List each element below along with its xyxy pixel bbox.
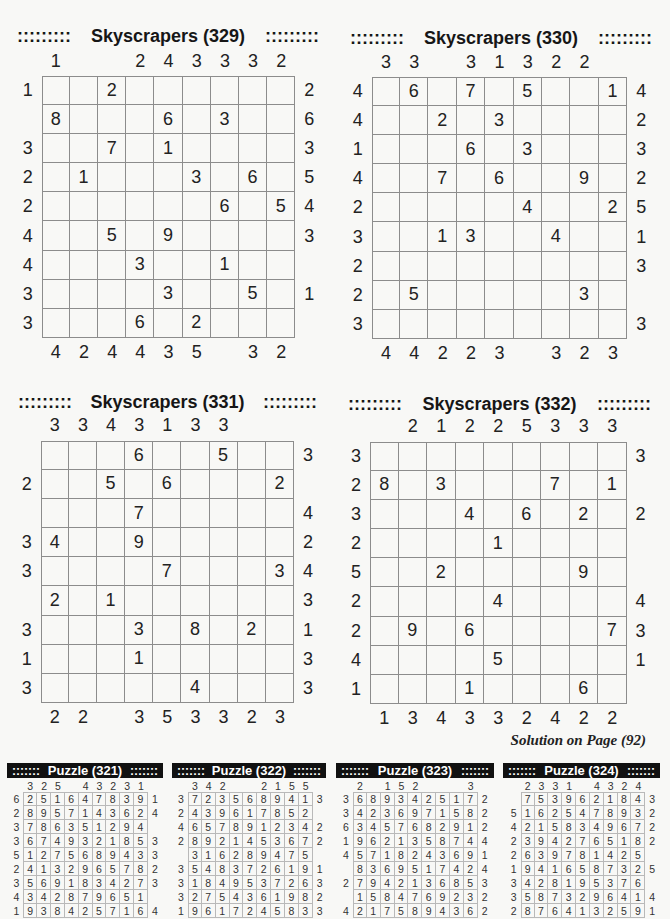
grid-cell: 8 [202,876,216,890]
grid-cell: 3 [285,820,299,834]
grid-cell [211,163,239,192]
grid-cell [41,616,69,645]
solution-321-board: 3254323162516478391289571436243786351294… [9,780,162,918]
grid-cell [125,586,153,615]
left-clue: 3 [339,806,353,820]
grid-cell: 5 [422,834,436,848]
grid-cell: 9 [535,834,549,848]
grid-cell [456,558,485,587]
grid-cell [211,76,239,105]
grid-cell [513,442,542,471]
grid-cell [598,529,627,558]
grid-cell: 3 [436,848,450,862]
grid-cell: 4 [590,820,604,834]
grid-cell: 3 [202,806,216,820]
grid-cell [126,192,154,221]
grid-cell [541,442,570,471]
grid-cell: 8 [353,862,367,876]
left-clue: 6 [339,820,353,834]
grid-cell: 6 [79,848,93,862]
grid-cell: 4 [618,890,632,904]
grid-cell [400,106,428,135]
grid-cell: 3 [604,876,618,890]
grid-cell: 7 [367,848,381,862]
puzzle-329-board: 1243332122863637132136526544593431335136… [14,46,324,368]
left-clue: 3 [174,890,188,904]
right-clue: 2 [295,76,323,105]
grid-cell [126,76,154,105]
grid-cell [239,192,267,221]
right-clue: 6 [295,105,323,134]
left-clue: 4 [344,106,372,135]
grid-cell: 4 [23,862,37,876]
grid-cell [210,586,238,615]
grid-cell [485,135,513,164]
bottom-clue: 3 [239,338,267,368]
dots-decoration-left: ::::::: [177,764,205,778]
top-clue: 1 [42,46,70,76]
grid-cell [210,616,238,645]
right-clue [627,281,655,310]
grid-cell [570,222,598,251]
grid-cell: 4 [422,848,436,862]
top-clue [98,46,126,76]
left-clue: 2 [13,470,41,499]
grid-cell: 3 [521,834,535,848]
left-clue: 3 [9,876,23,890]
grid-cell: 7 [37,834,51,848]
bottom-clue: 3 [399,704,428,734]
corner-spacer [9,780,23,792]
grid-cell [126,221,154,250]
grid-cell: 3 [51,862,65,876]
grid-cell [98,163,126,192]
grid-cell: 2 [299,806,313,820]
grid-cell: 4 [120,848,134,862]
grid-cell [428,77,456,106]
corner-spacer [478,780,492,792]
grid-cell [126,280,154,309]
grid-cell: 1 [120,904,134,918]
grid-cell [542,135,570,164]
grid-cell: 6 [513,500,542,529]
top-clue: 2 [267,46,295,76]
grid-cell: 7 [381,904,395,918]
bottom-clue [97,703,125,733]
right-clue [645,876,659,890]
grid-cell [238,441,266,470]
grid-cell [372,164,400,193]
top-clue: 3 [181,411,209,441]
corner-spacer [627,339,655,369]
left-clue: 3 [14,134,42,163]
right-clue [627,558,655,587]
grid-cell: 2 [238,616,266,645]
grid-cell: 2 [183,309,211,338]
grid-cell [97,557,125,586]
grid-cell: 5 [514,77,542,106]
grid-cell: 7 [428,164,456,193]
left-clue: 1 [174,904,188,918]
right-clue: 2 [645,820,659,834]
grid-cell: 4 [271,848,285,862]
grid-cell: 5 [548,820,562,834]
right-clue [295,309,323,338]
grid-cell: 1 [23,848,37,862]
grid-cell: 1 [535,820,549,834]
grid-cell: 9 [562,792,576,806]
grid-cell [598,558,627,587]
grid-cell [513,471,542,500]
grid-cell: 8 [216,862,230,876]
dots-decoration-right: ::::::::: [265,25,319,47]
puzzle-title: Skyscrapers (331) [90,391,244,413]
bottom-clue: 4 [98,338,126,368]
grid-cell [399,646,428,675]
grid-cell: 8 [243,848,257,862]
grid-cell: 8 [257,792,271,806]
grid-cell: 4 [548,834,562,848]
top-clue: 3 [188,780,202,792]
grid-cell [457,281,485,310]
grid-cell: 3 [271,834,285,848]
grid-cell [125,470,153,499]
grid-cell: 3 [367,862,381,876]
bottom-clue: 3 [542,339,570,369]
top-clue: 3 [125,411,153,441]
